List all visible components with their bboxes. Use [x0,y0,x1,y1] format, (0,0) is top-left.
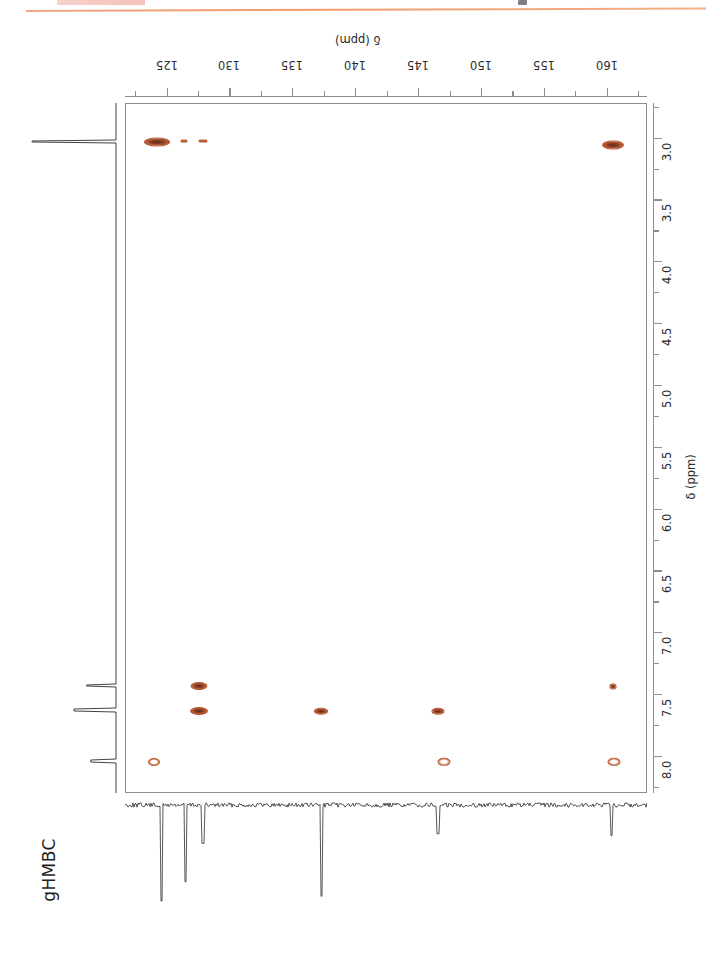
f2-tick-minor [387,91,388,96]
f2-axis-ruler: 125130135140145150155160 [125,96,647,98]
f1-tick-label: 7.5 [660,699,674,717]
cross-peak[interactable] [148,758,160,766]
f1-tick-major [654,385,662,386]
f2-axis-title: δ (ppm) [335,33,380,47]
f2-tick-label: 140 [340,58,370,72]
f1-tick-major [654,756,662,757]
f1-tick-minor [654,478,659,479]
f2-tick-label: 155 [529,58,559,72]
cross-peak-layer [126,104,646,792]
f2-tick-minor [575,91,576,96]
f1-tick-major [654,199,662,200]
scan-highlight-mark [57,0,145,5]
f1-tick-major [654,447,662,448]
f2-tick-minor [135,91,136,96]
f2-tick-major [292,88,293,96]
contour-plot-area[interactable] [125,103,647,793]
f1-axis-line [653,103,654,793]
f2-tick-label: 130 [214,58,244,72]
f1-tick-major [654,570,662,571]
cross-peak[interactable] [314,708,328,714]
f2-tick-minor [324,91,325,96]
f1-axis-ruler: 3.03.54.04.55.05.56.06.57.07.58.0 [653,103,655,793]
f1-tick-minor [654,292,659,293]
f1-tick-minor [654,540,659,541]
f2-tick-major [355,88,356,96]
f1-tick-minor [654,107,659,108]
f1-tick-minor [654,169,659,170]
f2-projection-svg [125,797,647,909]
f1-tick-label: 6.0 [660,513,674,531]
f2-tick-minor [638,91,639,96]
f1-tick-label: 4.5 [660,328,674,346]
f1-projection-path [32,103,116,793]
f1-tick-label: 4.0 [660,266,674,284]
f1-tick-major [654,509,662,510]
cross-peak[interactable] [608,758,621,766]
f1-tick-minor [654,725,659,726]
f1-tick-major [654,632,662,633]
f2-1d-projection-trace [125,797,647,909]
cropped-header-text-fragment [518,0,527,5]
f1-tick-minor [654,663,659,664]
f2-tick-major [481,88,482,96]
cross-peak[interactable] [198,140,207,143]
f2-tick-label: 150 [466,58,496,72]
f1-tick-label: 6.5 [660,575,674,593]
f2-tick-label: 145 [403,58,433,72]
f1-tick-label: 3.5 [660,204,674,222]
f1-tick-major [654,694,662,695]
f2-projection-path [125,803,647,901]
cross-peak[interactable] [602,140,624,149]
f1-tick-minor [654,416,659,417]
f1-tick-minor [654,230,659,231]
f1-axis-title: δ (ppm) [684,432,698,522]
f2-tick-minor [512,91,513,96]
f1-tick-label: 3.0 [660,142,674,160]
f2-tick-major [229,88,230,96]
f1-tick-major [654,323,662,324]
cross-peak[interactable] [609,684,616,689]
f2-tick-label: 125 [152,58,182,72]
f2-tick-label: 160 [592,58,622,72]
experiment-label: gHMBC [39,815,59,925]
f1-tick-minor [654,601,659,602]
f1-tick-major [654,261,662,262]
cross-peak[interactable] [190,707,208,715]
cross-peak[interactable] [190,682,207,690]
cross-peak[interactable] [431,708,444,714]
f2-tick-minor [198,91,199,96]
f1-tick-major [654,138,662,139]
f1-tick-label: 5.0 [660,390,674,408]
f2-axis-line [125,96,647,97]
cross-peak[interactable] [144,138,170,147]
cross-peak[interactable] [180,140,187,143]
f1-1d-projection-trace [30,103,122,793]
f1-tick-label: 7.0 [660,637,674,655]
f2-tick-major [544,88,545,96]
f2-tick-minor [261,91,262,96]
f2-tick-minor [450,91,451,96]
f2-tick-major [418,88,419,96]
f1-tick-minor [654,354,659,355]
f1-tick-minor [654,787,659,788]
f1-tick-label: 5.5 [660,451,674,469]
f2-tick-label: 135 [277,58,307,72]
f1-projection-svg [30,103,122,793]
f2-tick-major [607,88,608,96]
f1-tick-label: 8.0 [660,761,674,779]
page-header-rule [26,7,706,12]
f2-tick-major [167,88,168,96]
cross-peak[interactable] [438,758,451,766]
